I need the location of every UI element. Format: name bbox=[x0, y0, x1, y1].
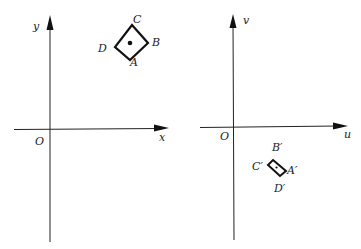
vertex-a-prime-label: A′ bbox=[286, 164, 298, 177]
x-axis-label: x bbox=[159, 131, 166, 144]
vertex-a-label: A bbox=[129, 56, 138, 69]
y-axis-arrow-icon bbox=[47, 15, 54, 30]
origin-label: O bbox=[220, 130, 229, 143]
center-point bbox=[128, 41, 133, 46]
v-axis bbox=[233, 22, 234, 240]
vertex-b-label: B bbox=[151, 36, 160, 49]
v-axis-arrow-icon bbox=[230, 14, 237, 28]
right-panel: v u O A′ B′ C′ D′ bbox=[200, 14, 351, 240]
vertex-d-label: D bbox=[97, 42, 107, 55]
mapping-diagram: y x O A B C D v u O A′ B′ C′ D′ bbox=[0, 0, 361, 249]
x-axis bbox=[14, 129, 160, 130]
u-axis-label: u bbox=[344, 128, 351, 141]
vertex-d-prime-label: D′ bbox=[273, 182, 286, 195]
left-panel: y x O A B C D bbox=[14, 13, 169, 242]
v-axis-label: v bbox=[243, 14, 250, 27]
vertex-b-prime-label: B′ bbox=[271, 141, 283, 154]
u-axis bbox=[200, 126, 338, 128]
vertex-c-prime-label: C′ bbox=[252, 160, 263, 173]
y-axis-label: y bbox=[32, 20, 40, 33]
image-center-point bbox=[275, 166, 277, 168]
origin-label: O bbox=[35, 135, 44, 148]
vertex-c-label: C bbox=[133, 13, 142, 26]
